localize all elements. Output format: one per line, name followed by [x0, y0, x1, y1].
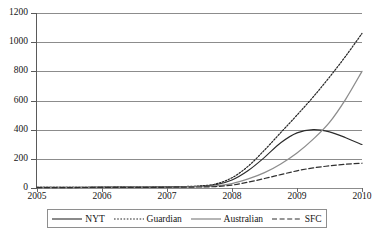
legend-item-australian[interactable]: Australian [191, 214, 264, 224]
series-line-sfc [37, 163, 362, 187]
legend-label: NYT [85, 214, 105, 224]
series-line-guardian [37, 33, 362, 187]
legend-item-nyt[interactable]: NYT [52, 214, 105, 224]
legend-item-guardian[interactable]: Guardian [114, 214, 182, 224]
legend-swatch-nyt-icon [52, 215, 82, 223]
line-chart: 020040060080010001200 200520062007200820… [0, 0, 373, 237]
chart-legend: NYTGuardianAustralianSFC [47, 209, 327, 228]
legend-label: Guardian [147, 214, 182, 224]
legend-swatch-sfc-icon [272, 215, 302, 223]
series-layer [0, 0, 373, 237]
legend-label: SFC [305, 214, 322, 224]
legend-swatch-guardian-icon [114, 215, 144, 223]
legend-item-sfc[interactable]: SFC [272, 214, 322, 224]
legend-swatch-australian-icon [191, 215, 221, 223]
legend-label: Australian [224, 214, 264, 224]
